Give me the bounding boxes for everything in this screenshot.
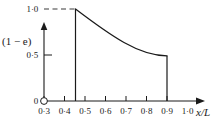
x-axis (44, 98, 205, 105)
x-axis-title: x/L (196, 106, 210, 118)
y-axis (41, 22, 48, 101)
x-tick-label-0-8: 0·8 (141, 106, 152, 116)
y-axis-title-text: (1 − e) (2, 35, 31, 47)
y-tick-label-0: 0 (18, 96, 38, 106)
x-axis-arrow-icon (196, 98, 205, 105)
x-tick-label-0-4: 0·4 (59, 106, 70, 116)
decay-curve (76, 9, 168, 56)
x-tick-label-0-3: 0·3 (38, 106, 49, 116)
y-tick-label-1-0: 1·0 (9, 4, 38, 14)
x-tick-label-0-6: 0·6 (100, 106, 111, 116)
y-axis-title: (1 − e) (2, 35, 31, 47)
chart-figure: 1·0 0·5 0 0·3 0·4 0·5 0·6 0·7 0·8 0·9 1·… (0, 0, 221, 124)
x-tick-label-0-9: 0·9 (161, 106, 172, 116)
x-axis-ticks (44, 96, 167, 101)
x-tick-label-0-7: 0·7 (120, 106, 131, 116)
y-axis-arrow-icon (41, 22, 48, 30)
y-tick-label-0-5: 0·5 (9, 50, 38, 60)
origin-marker-icon (41, 98, 48, 105)
x-axis-title-text: x/L (196, 106, 210, 118)
x-tick-label-1-0: 1·0 (182, 106, 193, 116)
x-tick-label-0-5: 0·5 (79, 106, 90, 116)
